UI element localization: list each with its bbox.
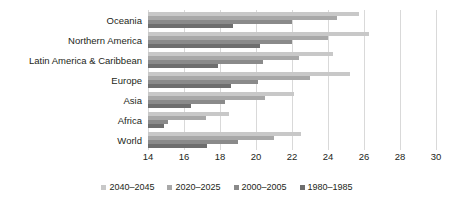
legend-swatch-icon — [167, 185, 172, 190]
bar-group — [148, 50, 436, 70]
legend-swatch-icon — [101, 185, 106, 190]
bar — [148, 44, 260, 48]
value-tick-label: 22 — [287, 151, 298, 163]
legend-item[interactable]: 2020–2025 — [167, 182, 220, 193]
legend-label: 2020–2025 — [175, 182, 220, 193]
value-tick-label: 20 — [251, 151, 262, 163]
value-tick-label: 16 — [179, 151, 190, 163]
value-tick-label: 28 — [395, 151, 406, 163]
bar-group — [148, 130, 436, 150]
bar — [148, 24, 233, 28]
bar-group — [148, 10, 436, 30]
bar — [148, 144, 207, 148]
category-label: World — [117, 135, 142, 146]
legend-item[interactable]: 1980–1985 — [300, 182, 353, 193]
category-label: Asia — [124, 95, 142, 106]
category-label: Northern America — [68, 35, 142, 46]
bar-group — [148, 30, 436, 50]
value-tick-label: 18 — [215, 151, 226, 163]
plot-area — [148, 10, 436, 150]
category-label: Africa — [118, 115, 142, 126]
legend-label: 1980–1985 — [308, 182, 353, 193]
bar-group — [148, 70, 436, 90]
bar — [148, 124, 164, 128]
category-axis-labels: OceaniaNorthern AmericaLatin America & C… — [0, 10, 144, 150]
legend-label: 2040–2045 — [109, 182, 154, 193]
bar — [148, 104, 191, 108]
value-tick-label: 24 — [323, 151, 334, 163]
gridline — [436, 10, 437, 150]
value-axis-labels: 141618202224262830 — [148, 151, 436, 167]
category-label: Europe — [111, 75, 142, 86]
legend-label: 2000–2005 — [242, 182, 287, 193]
legend-swatch-icon — [300, 185, 305, 190]
legend-swatch-icon — [234, 185, 239, 190]
bar-group — [148, 110, 436, 130]
bar — [148, 84, 231, 88]
bar-group — [148, 90, 436, 110]
legend-item[interactable]: 2000–2005 — [234, 182, 287, 193]
category-label: Latin America & Caribbean — [29, 55, 142, 66]
category-label: Oceania — [107, 15, 142, 26]
legend-item[interactable]: 2040–2045 — [101, 182, 154, 193]
value-tick-label: 26 — [359, 151, 370, 163]
value-tick-label: 30 — [431, 151, 442, 163]
chart-container: OceaniaNorthern AmericaLatin America & C… — [0, 0, 454, 208]
bar — [148, 64, 218, 68]
chart-legend: 2040–20452020–20252000–20051980–1985 — [0, 182, 454, 193]
value-tick-label: 14 — [143, 151, 154, 163]
